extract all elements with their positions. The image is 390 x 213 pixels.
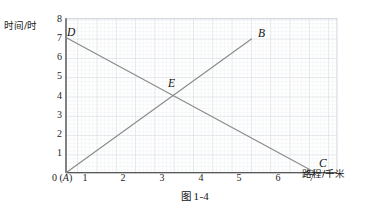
- y-tick-4: 4: [48, 90, 62, 101]
- caption-prefix: 图: [181, 190, 191, 202]
- figure-caption: 图 1-4: [0, 188, 390, 203]
- x-tick-origin: 0 (A): [52, 172, 72, 183]
- x-tick-3: 3: [154, 172, 170, 183]
- y-axis-label: 时间/时: [4, 18, 37, 32]
- figure-container: 时间/时 路程/千米 D B E C 8 7 6: [0, 0, 390, 213]
- grid-background: [66, 18, 337, 172]
- point-label-B: B: [258, 27, 265, 39]
- x-tick-2: 2: [115, 172, 131, 183]
- y-tick-2: 2: [48, 128, 62, 139]
- origin-point-a: (A): [57, 172, 72, 183]
- x-tick-4: 4: [193, 172, 209, 183]
- y-tick-1: 1: [48, 147, 62, 158]
- x-tick-5: 5: [231, 172, 247, 183]
- x-tick-6: 6: [270, 172, 286, 183]
- y-tick-6: 6: [48, 51, 62, 62]
- y-tick-3: 3: [48, 109, 62, 120]
- point-label-E: E: [168, 77, 175, 89]
- x-tick-7: 7: [288, 172, 389, 183]
- x-tick-1: 1: [77, 172, 93, 183]
- y-tick-5: 5: [48, 70, 62, 81]
- y-tick-7: 7: [48, 32, 62, 43]
- point-label-C: C: [319, 157, 327, 169]
- y-tick-8: 8: [48, 13, 62, 24]
- caption-number: 1-4: [194, 190, 210, 202]
- point-label-D: D: [67, 26, 75, 38]
